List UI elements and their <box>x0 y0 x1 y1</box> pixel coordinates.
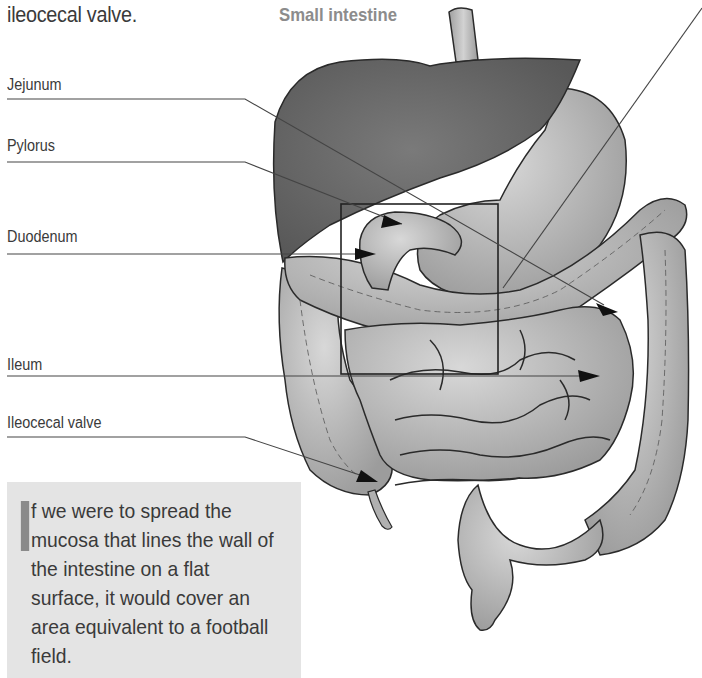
label-jejunum: Jejunum <box>7 76 61 94</box>
sigmoid-colon-and-rectum <box>458 485 603 630</box>
label-ileum: Ileum <box>7 356 42 374</box>
fact-body: f we were to spread the mucosa that line… <box>31 499 274 667</box>
esophagus <box>449 8 478 62</box>
dropcap-bar <box>21 501 29 551</box>
small-intestine-coils <box>345 307 633 485</box>
fact-box: f we were to spread the mucosa that line… <box>7 482 301 678</box>
fact-text: f we were to spread the mucosa that line… <box>31 496 278 670</box>
label-duodenum: Duodenum <box>7 228 77 246</box>
label-ileocecal-valve: Ileocecal valve <box>7 414 101 432</box>
appendix <box>368 490 392 529</box>
label-pylorus: Pylorus <box>7 137 55 155</box>
